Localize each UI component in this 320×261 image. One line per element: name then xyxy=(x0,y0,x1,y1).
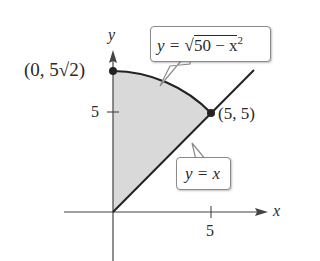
point-0-5root2 xyxy=(109,67,117,75)
circle-equation-prefix: y = xyxy=(157,36,185,55)
callout-circle-equation: y = √50 − x2 xyxy=(150,26,271,62)
x-tick-label: 5 xyxy=(206,223,214,239)
circle-equation-radicand: 50 − x xyxy=(194,35,238,55)
circle-equation-label: y = √50 − x2 xyxy=(157,35,243,54)
radical-icon: √ xyxy=(185,36,194,55)
x-axis-label: x xyxy=(273,203,280,219)
point-label-0-5root2: (0, 5√2) xyxy=(24,60,85,79)
circle-equation-exponent: 2 xyxy=(237,34,243,46)
y-axis-label: y xyxy=(108,27,115,43)
line-equation-label: y = x xyxy=(185,165,220,182)
callout-line-equation: y = x xyxy=(176,157,231,190)
point-5-5 xyxy=(207,109,215,117)
point-label-5-5: (5, 5) xyxy=(218,105,255,122)
y-tick-label: 5 xyxy=(91,104,99,120)
shaded-region xyxy=(113,71,211,212)
